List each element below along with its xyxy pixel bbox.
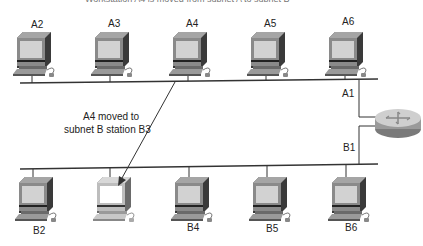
label-b1: B1: [343, 142, 356, 153]
pc-icon-a4: [169, 32, 210, 77]
pc-icon-b6: [328, 177, 369, 222]
router-icon: [375, 109, 421, 138]
router-link-b: [359, 126, 376, 164]
label-b5: B5: [266, 223, 279, 234]
router-link-a: [359, 80, 376, 117]
label-a5: A5: [264, 18, 277, 29]
pc-icon-b4: [171, 177, 212, 222]
label-a2: A2: [31, 19, 44, 30]
label-b6: B6: [345, 222, 358, 233]
pc-icon-b5: [249, 177, 290, 222]
pc-icon-b3-moved: [93, 177, 134, 222]
label-a4: A4: [186, 18, 199, 29]
annotation-line1: A4 moved to: [83, 111, 140, 122]
label-a3: A3: [108, 18, 121, 29]
subnet-a-bus: [20, 79, 378, 83]
label-b2: B2: [33, 225, 46, 236]
pc-icon-b2: [15, 177, 56, 222]
subnet-b-bus: [20, 164, 378, 169]
pc-icon-a6: [325, 32, 366, 77]
pc-icon-a2: [13, 32, 54, 77]
annotation-line2: subnet B station B3: [64, 124, 151, 135]
pc-icon-a3: [91, 32, 132, 77]
label-a1: A1: [342, 88, 355, 99]
label-b4: B4: [187, 222, 200, 233]
network-diagram: A2 A3 A4 A5 A6 A1 B1 B2 B4 B5 B6 A4 move…: [0, 0, 423, 246]
pc-icon-a5: [247, 32, 288, 77]
label-a6: A6: [342, 16, 355, 27]
